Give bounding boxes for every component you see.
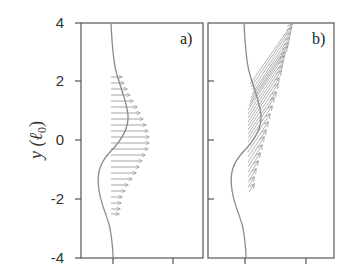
- ytick-neg2: -2: [51, 190, 64, 207]
- panel-b-label: b): [312, 30, 325, 48]
- panel-a-label: a): [180, 30, 192, 48]
- panel-a-xticks: [113, 258, 173, 264]
- ytick-4: 4: [56, 14, 64, 31]
- y-axis-label: y (ℓ0): [26, 121, 49, 161]
- figure: y (ℓ0) 4 2 0 -2 -4 a): [0, 0, 351, 277]
- panel-b: b): [208, 23, 334, 264]
- ytick-0: 0: [56, 131, 64, 148]
- panel-a-yticks: [75, 23, 81, 258]
- svg-text:y (ℓ0): y (ℓ0): [26, 121, 49, 161]
- panel-b-arrows: [248, 24, 292, 192]
- panel-a: a): [75, 23, 203, 264]
- ytick-neg4: -4: [51, 249, 64, 266]
- panel-a-curve: [98, 23, 128, 258]
- panel-b-frame: [208, 23, 334, 258]
- panel-b-yticks: [208, 81, 214, 199]
- panel-b-xticks: [245, 258, 306, 264]
- ytick-2: 2: [56, 72, 64, 89]
- y-tick-labels: 4 2 0 -2 -4: [51, 14, 64, 266]
- panel-b-curve: [231, 23, 261, 258]
- panel-a-frame: [81, 23, 203, 258]
